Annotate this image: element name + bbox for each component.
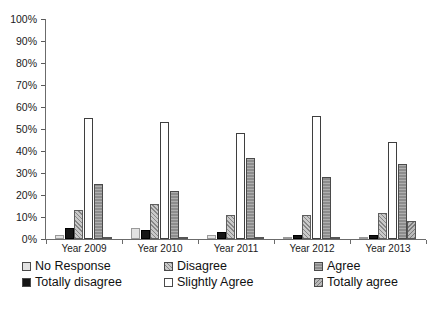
legend-swatch-totally-disagree bbox=[22, 278, 31, 287]
bar bbox=[302, 215, 311, 239]
y-axis-tick-label: 20% bbox=[16, 190, 37, 200]
bar bbox=[170, 191, 179, 239]
bar bbox=[369, 235, 378, 239]
legend-item-label: Totally disagree bbox=[35, 275, 122, 289]
y-axis-tick-label: 40% bbox=[16, 146, 37, 156]
bar bbox=[94, 184, 103, 239]
bar bbox=[331, 237, 340, 239]
x-axis-category-label: Year 2012 bbox=[289, 243, 334, 255]
bar-group bbox=[207, 19, 265, 239]
bar bbox=[160, 122, 169, 239]
bar-group bbox=[55, 19, 113, 239]
bar bbox=[74, 210, 83, 239]
x-axis-category-label: Year 2011 bbox=[214, 243, 259, 255]
y-axis-tick-label: 30% bbox=[16, 168, 37, 178]
legend-swatch-no-response bbox=[22, 262, 31, 271]
legend-item-label: No Response bbox=[35, 259, 111, 273]
x-axis-tick bbox=[122, 240, 123, 244]
bar bbox=[226, 215, 235, 239]
legend-item: Totally agree bbox=[314, 275, 422, 289]
bar bbox=[84, 118, 93, 239]
legend-swatch-slightly-agree bbox=[164, 278, 173, 287]
legend-swatch-totally-agree bbox=[314, 278, 323, 287]
y-axis-tick-label: 90% bbox=[16, 36, 37, 46]
y-axis-tick-label: 80% bbox=[16, 58, 37, 68]
x-axis-tick bbox=[350, 240, 351, 244]
bar bbox=[217, 232, 226, 239]
bar bbox=[388, 142, 397, 239]
bar bbox=[246, 158, 255, 239]
x-axis-tick bbox=[46, 240, 47, 244]
bar-groups bbox=[46, 19, 426, 239]
x-axis-tick bbox=[198, 240, 199, 244]
bar bbox=[407, 221, 416, 239]
y-axis-tick-label: 0% bbox=[22, 234, 37, 244]
x-axis-tick bbox=[426, 240, 427, 244]
y-axis-tick-label: 60% bbox=[16, 102, 37, 112]
legend-item: No Response bbox=[22, 259, 164, 273]
y-axis-tick-label: 50% bbox=[16, 124, 37, 134]
x-axis-tick bbox=[274, 240, 275, 244]
legend-swatch-disagree bbox=[164, 262, 173, 271]
bar bbox=[322, 177, 331, 239]
bar bbox=[55, 235, 64, 239]
bar bbox=[207, 235, 216, 239]
chart-figure: 0%10%20%30%40%50%60%70%80%90%100% Year 2… bbox=[0, 0, 434, 309]
legend-item: Agree bbox=[314, 259, 422, 273]
y-axis: 0%10%20%30%40%50%60%70%80%90%100% bbox=[0, 0, 44, 250]
bar bbox=[141, 230, 150, 239]
bar bbox=[255, 237, 264, 239]
bar bbox=[398, 164, 407, 239]
bar bbox=[293, 235, 302, 239]
legend-item: Disagree bbox=[164, 259, 314, 273]
x-axis-category-label: Year 2013 bbox=[365, 243, 410, 255]
legend-item-label: Disagree bbox=[177, 259, 227, 273]
bar bbox=[359, 237, 368, 239]
x-axis-category-label: Year 2010 bbox=[137, 243, 182, 255]
bar bbox=[283, 237, 292, 239]
plot-area: 0%10%20%30%40%50%60%70%80%90%100% Year 2… bbox=[0, 0, 434, 250]
legend-item: Totally disagree bbox=[22, 275, 164, 289]
y-axis-tick-label: 100% bbox=[10, 14, 37, 24]
legend-item-label: Totally agree bbox=[327, 275, 398, 289]
bar bbox=[179, 237, 188, 239]
legend-swatch-agree bbox=[314, 262, 323, 271]
bar bbox=[65, 228, 74, 239]
x-axis-line bbox=[45, 239, 426, 240]
y-axis-tick-label: 10% bbox=[16, 212, 37, 222]
legend-item: Slightly Agree bbox=[164, 275, 314, 289]
bar-group bbox=[283, 19, 341, 239]
bar bbox=[150, 204, 159, 239]
chart-legend: No ResponseDisagreeAgreeTotally disagree… bbox=[22, 258, 422, 290]
bar bbox=[236, 133, 245, 239]
bar bbox=[378, 213, 387, 239]
bar bbox=[103, 237, 112, 239]
bar bbox=[312, 116, 321, 239]
bar bbox=[131, 228, 140, 239]
y-axis-tick-label: 70% bbox=[16, 80, 37, 90]
legend-item-label: Agree bbox=[327, 259, 360, 273]
x-axis-category-label: Year 2009 bbox=[61, 243, 106, 255]
bar-group bbox=[359, 19, 417, 239]
bar-group bbox=[131, 19, 189, 239]
legend-item-label: Slightly Agree bbox=[177, 275, 253, 289]
